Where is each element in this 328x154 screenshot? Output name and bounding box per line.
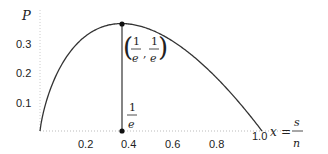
svg-text:e: e <box>128 118 135 131</box>
y-axis-label: P <box>21 8 31 23</box>
chart: 0.1 0.2 0.3 0.2 0.4 0.6 0.8 1.0 P x = s … <box>0 0 328 154</box>
base-annotation: 1 e <box>127 101 137 131</box>
x-tick-0.2: 0.2 <box>78 138 93 150</box>
peak-point <box>119 21 124 26</box>
y-tick-0.3: 0.3 <box>16 38 31 50</box>
svg-text:1: 1 <box>133 35 140 48</box>
svg-text:1: 1 <box>151 35 158 48</box>
x-tick-0.8: 0.8 <box>209 138 224 150</box>
svg-text:1: 1 <box>129 101 136 114</box>
svg-text:=: = <box>281 125 291 139</box>
svg-text:n: n <box>293 137 300 150</box>
x-tick-1.0: 1.0 <box>252 130 267 142</box>
svg-text:,: , <box>143 47 147 60</box>
x-axis-label: x = s n <box>270 116 303 150</box>
x-tick-0.4: 0.4 <box>121 138 136 150</box>
svg-text:s: s <box>294 116 300 129</box>
svg-text:): ) <box>158 32 168 62</box>
svg-text:e: e <box>132 52 139 65</box>
y-tick-0.1: 0.1 <box>16 97 31 109</box>
svg-text:e: e <box>150 52 157 65</box>
x-tick-0.6: 0.6 <box>165 138 180 150</box>
y-tick-0.2: 0.2 <box>16 67 31 79</box>
base-point <box>119 128 124 133</box>
peak-annotation: ( 1 e , 1 e ) <box>123 32 168 65</box>
svg-text:x: x <box>270 125 277 139</box>
